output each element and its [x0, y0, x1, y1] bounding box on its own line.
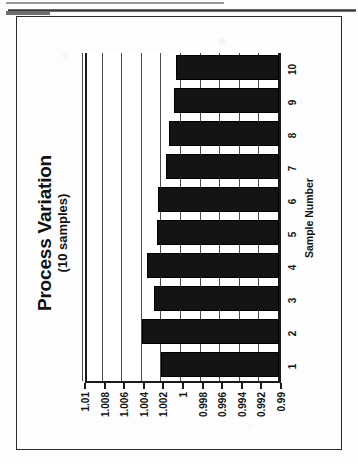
gridline [121, 53, 122, 381]
bar[interactable] [176, 55, 279, 79]
x-tick-label: 10 [287, 64, 298, 75]
chart-title-block: Process Variation (10 samples) [35, 29, 70, 437]
x-tick-label: 9 [287, 100, 298, 106]
bar[interactable] [174, 88, 279, 112]
y-tick-mark [202, 383, 204, 389]
y-tick-label: 0.994 [236, 392, 247, 417]
bar[interactable] [142, 319, 279, 343]
y-tick-label: 0.996 [217, 392, 228, 417]
y-tick-mark [123, 383, 125, 389]
y-tick-mark [143, 383, 145, 389]
bar[interactable] [169, 121, 279, 145]
x-tick-label: 5 [287, 232, 298, 238]
bar[interactable] [166, 154, 279, 178]
x-tick-label: 4 [287, 265, 298, 271]
bar-chart: Process Variation (10 samples) Sample Nu… [29, 29, 329, 437]
bar[interactable] [147, 253, 279, 277]
x-tick-label: 3 [287, 298, 298, 304]
bar[interactable] [154, 286, 279, 310]
y-tick-label: 1.01 [80, 392, 91, 411]
y-tick-mark [260, 383, 262, 389]
x-tick-label: 6 [287, 199, 298, 205]
y-tick-label: 1.004 [138, 392, 149, 417]
y-tick-label: 0.99 [276, 392, 287, 411]
x-axis-title: Sample Number [303, 53, 315, 383]
bar[interactable] [161, 352, 279, 376]
page-top-thin-rule [6, 2, 224, 4]
bar[interactable] [157, 220, 280, 244]
bar[interactable] [158, 187, 279, 211]
y-tick-mark [221, 383, 223, 389]
scanned-page: Process Variation (10 samples) Sample Nu… [0, 0, 358, 464]
y-tick-mark [84, 383, 86, 389]
y-tick-mark [182, 383, 184, 389]
gridline [82, 53, 83, 381]
figure-border: Process Variation (10 samples) Sample Nu… [16, 16, 342, 450]
y-tick-label: 1 [178, 392, 189, 398]
y-tick-mark [241, 383, 243, 389]
page-header-stub-rule [6, 11, 50, 15]
x-tick-label: 1 [287, 364, 298, 370]
gridline [102, 53, 103, 381]
y-tick-label: 1.002 [158, 392, 169, 417]
y-tick-label: 1.006 [119, 392, 130, 417]
y-tick-label: 0.998 [197, 392, 208, 417]
plot-top-edge [85, 53, 87, 381]
y-tick-label: 0.992 [256, 392, 267, 417]
x-tick-label: 8 [287, 133, 298, 139]
y-tick-mark [162, 383, 164, 389]
page-header-rule [8, 9, 356, 12]
y-tick-mark [280, 383, 282, 389]
chart-subtitle: (10 samples) [56, 29, 70, 437]
chart-title: Process Variation [35, 29, 55, 437]
y-tick-label: 1.008 [99, 392, 110, 417]
rotated-chart-stage: Process Variation (10 samples) Sample Nu… [29, 29, 329, 437]
y-tick-mark [104, 383, 106, 389]
x-tick-label: 2 [287, 331, 298, 337]
x-tick-label: 7 [287, 166, 298, 172]
plot-area [85, 53, 281, 383]
